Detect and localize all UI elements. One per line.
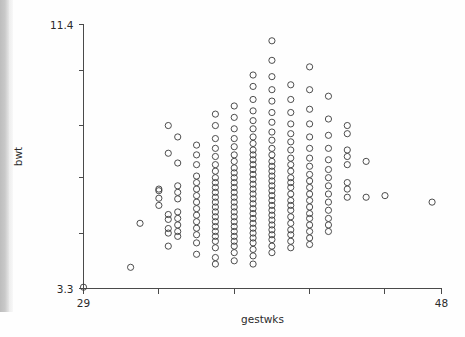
data-point <box>269 250 275 256</box>
data-point <box>212 135 218 141</box>
data-point <box>231 126 237 132</box>
data-point <box>212 145 218 151</box>
data-point <box>307 222 313 228</box>
data-point <box>250 83 256 89</box>
data-point <box>269 152 275 158</box>
data-point <box>193 193 199 199</box>
data-point <box>288 220 294 226</box>
data-point <box>212 245 218 251</box>
data-point <box>344 153 350 159</box>
data-point <box>307 106 313 112</box>
data-point <box>250 96 256 102</box>
y-axis <box>79 25 84 289</box>
data-point <box>307 134 313 140</box>
plot-canvas: 11.4 3.3 29 48 gestwks bwt <box>0 0 465 337</box>
data-point <box>269 119 275 125</box>
data-point <box>250 140 256 146</box>
data-point <box>231 152 237 158</box>
data-point <box>193 251 199 257</box>
data-point <box>193 173 199 179</box>
data-point <box>175 196 181 202</box>
data-point <box>212 261 218 267</box>
data-point <box>165 243 171 249</box>
data-point <box>193 142 199 148</box>
data-point <box>250 126 256 132</box>
screenshot-root: 11.4 3.3 29 48 gestwks bwt <box>0 0 465 337</box>
data-point <box>325 166 331 172</box>
data-point <box>231 250 237 256</box>
data-point <box>307 121 313 127</box>
data-point <box>325 215 331 221</box>
data-point <box>231 158 237 164</box>
data-point <box>288 162 294 168</box>
data-point <box>231 135 237 141</box>
x-axis-tick-group <box>84 289 442 294</box>
data-point <box>269 98 275 104</box>
scatter-plot-figure: 11.4 3.3 29 48 gestwks bwt <box>0 0 465 337</box>
data-point <box>269 243 275 249</box>
data-point <box>250 261 256 267</box>
data-point <box>231 114 237 120</box>
data-point <box>325 183 331 189</box>
data-point <box>156 195 162 201</box>
data-point <box>307 184 313 190</box>
data-point <box>325 199 331 205</box>
data-point <box>325 116 331 122</box>
x-axis <box>84 289 442 294</box>
data-point <box>429 199 435 205</box>
data-point <box>269 57 275 63</box>
data-point <box>165 225 171 231</box>
data-point <box>231 258 237 264</box>
data-point <box>175 222 181 228</box>
data-point <box>212 153 218 159</box>
data-point <box>288 121 294 127</box>
data-point <box>307 64 313 70</box>
data-point <box>269 109 275 115</box>
data-point <box>307 228 313 234</box>
data-point <box>288 96 294 102</box>
data-point <box>269 137 275 143</box>
data-point <box>193 206 199 212</box>
data-point <box>193 152 199 158</box>
data-point <box>288 147 294 153</box>
data-point <box>137 220 143 226</box>
data-point <box>193 179 199 185</box>
data-point <box>307 197 313 203</box>
data-point <box>250 134 256 140</box>
data-point <box>165 122 171 128</box>
data-point <box>193 232 199 238</box>
data-point <box>250 108 256 114</box>
data-point <box>269 87 275 93</box>
data-point <box>288 191 294 197</box>
data-point <box>175 215 181 221</box>
data-point <box>250 118 256 124</box>
data-point <box>193 162 199 168</box>
data-point <box>212 168 218 174</box>
data-point <box>288 245 294 251</box>
data-point <box>325 132 331 138</box>
data-point <box>307 145 313 151</box>
data-point <box>307 178 313 184</box>
y-axis-tick-label-max: 11.4 <box>50 19 74 31</box>
data-point <box>307 155 313 161</box>
data-point-group <box>80 38 435 291</box>
data-point <box>175 160 181 166</box>
data-point <box>288 139 294 145</box>
data-point <box>307 191 313 197</box>
data-point <box>250 72 256 78</box>
y-axis-tick-group <box>79 25 84 289</box>
data-point <box>175 134 181 140</box>
data-point <box>175 183 181 189</box>
data-point <box>363 194 369 200</box>
data-point <box>325 228 331 234</box>
data-point <box>269 145 275 151</box>
data-point <box>193 225 199 231</box>
data-point <box>212 122 218 128</box>
data-point <box>325 145 331 151</box>
data-point <box>212 162 218 168</box>
data-point <box>193 219 199 225</box>
data-point <box>269 129 275 135</box>
data-point <box>325 191 331 197</box>
data-point <box>156 202 162 208</box>
data-point <box>175 209 181 215</box>
